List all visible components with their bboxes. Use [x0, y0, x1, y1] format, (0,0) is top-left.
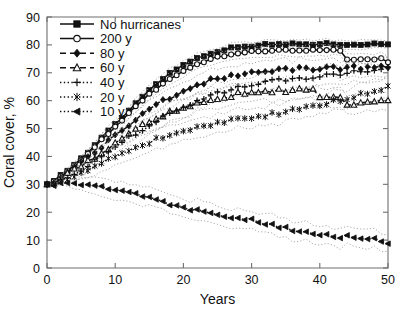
marker-left-triangle — [112, 187, 117, 193]
marker-left-triangle — [208, 210, 213, 216]
marker-square — [331, 42, 336, 47]
marker-left-triangle — [180, 205, 185, 211]
marker-left-triangle — [119, 188, 124, 194]
marker-circle — [276, 47, 281, 52]
marker-left-triangle — [324, 231, 329, 237]
y-axis-label: Coral cover, % — [1, 97, 17, 188]
confidence-band — [47, 43, 388, 184]
marker-left-triangle — [371, 235, 376, 241]
marker-circle — [181, 68, 186, 73]
legend-label: 10 y — [100, 104, 125, 119]
marker-plus — [290, 75, 296, 81]
legend: No hurricanes200 y80 y60 y40 y20 y10 y — [60, 17, 181, 120]
marker-left-triangle — [126, 189, 131, 195]
legend-label: No hurricanes — [100, 17, 181, 32]
legend-item-10-y[interactable]: 10 y — [60, 104, 125, 119]
marker-star — [372, 88, 377, 95]
marker-plus — [351, 68, 357, 74]
marker-circle — [345, 57, 350, 62]
marker-star — [126, 148, 131, 155]
legend-item-60-y[interactable]: 60 y — [60, 60, 125, 75]
marker-left-triangle — [85, 182, 90, 188]
marker-circle — [358, 57, 363, 62]
marker-circle — [263, 49, 268, 54]
marker-triangle — [140, 121, 146, 126]
marker-triangle — [385, 97, 391, 102]
marker-left-triangle — [160, 199, 165, 205]
y-tick-label: 10 — [26, 234, 40, 248]
marker-diamond — [222, 75, 227, 81]
legend-item-200-y[interactable]: 200 y — [60, 31, 132, 46]
marker-square — [345, 42, 350, 47]
marker-circle — [242, 50, 247, 55]
series-line — [47, 43, 388, 184]
marker-plus — [208, 92, 214, 98]
marker-left-triangle — [187, 208, 192, 214]
marker-star — [133, 144, 138, 151]
marker-plus — [269, 77, 275, 83]
marker-left-triangle — [249, 216, 254, 222]
marker-square — [222, 48, 227, 53]
marker-left-triangle — [228, 215, 233, 221]
legend-item-40-y[interactable]: 40 y — [60, 75, 125, 90]
marker-plus — [221, 90, 227, 96]
coral-cover-line-chart: 010203040500102030405060708090YearsCoral… — [0, 0, 405, 313]
marker-diamond — [304, 65, 309, 71]
marker-triangle — [235, 89, 241, 94]
marker-square — [351, 42, 356, 47]
marker-circle — [297, 48, 302, 53]
marker-left-triangle — [351, 235, 356, 241]
marker-circle — [270, 48, 275, 53]
marker-circle — [304, 48, 309, 53]
marker-diamond — [174, 92, 179, 98]
marker-circle — [195, 62, 200, 67]
marker-circle — [229, 52, 234, 57]
marker-diamond — [188, 85, 193, 91]
series-group — [44, 38, 391, 251]
marker-circle — [331, 47, 336, 52]
marker-square — [242, 44, 247, 49]
marker-triangle — [242, 91, 248, 96]
legend-item-20-y[interactable]: 20 y — [60, 90, 125, 105]
marker-circle — [256, 49, 261, 54]
y-tick-label: 30 — [26, 178, 40, 192]
y-tick-label: 40 — [26, 150, 40, 164]
marker-plus — [344, 70, 350, 76]
marker-circle — [201, 60, 206, 65]
y-tick-label: 0 — [33, 262, 40, 276]
marker-left-triangle — [78, 182, 83, 188]
legend-item-no-hurricanes[interactable]: No hurricanes — [60, 17, 181, 32]
marker-circle — [126, 110, 131, 115]
marker-triangle — [269, 90, 275, 95]
coral-cover-figure: 010203040500102030405060708090YearsCoral… — [0, 0, 405, 313]
marker-circle — [208, 56, 213, 61]
marker-circle — [365, 57, 370, 62]
legend-item-80-y[interactable]: 80 y — [60, 46, 125, 61]
marker-plus — [303, 76, 309, 82]
marker-diamond — [345, 64, 350, 70]
marker-square — [365, 42, 370, 47]
y-tick-label: 70 — [26, 66, 40, 80]
x-tick-label: 40 — [313, 273, 327, 287]
confidence-band — [47, 184, 388, 251]
legend-label: 20 y — [100, 90, 125, 105]
marker-plus — [215, 89, 221, 95]
marker-triangle — [208, 97, 214, 102]
marker-circle — [167, 76, 172, 81]
marker-diamond — [297, 64, 302, 70]
marker-square — [310, 42, 315, 47]
marker-left-triangle — [153, 197, 158, 203]
marker-plus — [283, 78, 289, 84]
marker-circle — [174, 73, 179, 78]
marker-left-triangle — [174, 203, 179, 209]
marker-circle — [317, 48, 322, 53]
marker-diamond — [229, 72, 234, 78]
marker-diamond — [242, 71, 247, 77]
marker-circle — [113, 124, 118, 129]
marker-left-triangle — [73, 108, 80, 115]
marker-left-triangle — [201, 209, 206, 215]
marker-left-triangle — [194, 207, 199, 213]
marker-left-triangle — [71, 181, 76, 187]
marker-triangle — [276, 86, 282, 91]
marker-left-triangle — [330, 234, 335, 240]
